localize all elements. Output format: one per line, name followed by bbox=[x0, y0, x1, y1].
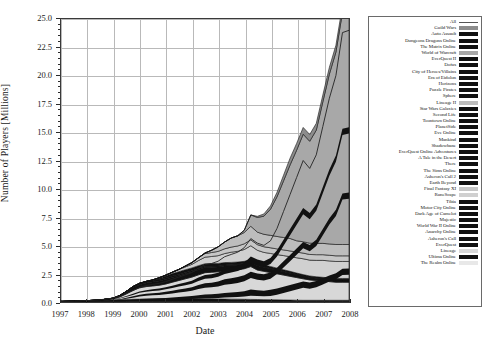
legend-swatch bbox=[459, 218, 478, 222]
legend-swatch bbox=[459, 156, 478, 160]
legend-swatch bbox=[459, 243, 478, 247]
legend-swatch bbox=[459, 57, 478, 61]
legend-swatch bbox=[459, 51, 478, 55]
legend-item-label: EverQuest Online Adventures bbox=[399, 149, 456, 155]
legend-swatch bbox=[459, 187, 478, 191]
legend-swatch bbox=[459, 107, 478, 111]
legend-swatch bbox=[459, 237, 478, 241]
x-tick-mark bbox=[165, 299, 166, 303]
legend-item-label: Dungeons Dragons Online bbox=[405, 38, 456, 44]
legend: AllGuild WarsAuto AssaultDungeons Dragon… bbox=[368, 16, 482, 307]
y-tick-label: 0.0 bbox=[0, 299, 52, 308]
y-tick-label: 7.5 bbox=[0, 214, 52, 223]
legend-swatch bbox=[459, 200, 478, 204]
legend-swatch bbox=[459, 88, 478, 92]
legend-swatch bbox=[459, 212, 478, 216]
legend-item-label: Majestic bbox=[440, 217, 456, 223]
legend-item-label: Guild Wars bbox=[434, 25, 456, 31]
legend-swatch bbox=[459, 32, 478, 36]
y-tick-mark bbox=[56, 303, 60, 304]
y-tick-label: 10.0 bbox=[0, 185, 52, 194]
legend-item-label: Star Wars Galaxies bbox=[420, 106, 456, 112]
x-tick-mark bbox=[245, 299, 246, 303]
x-tick-mark bbox=[297, 299, 298, 303]
legend-swatch bbox=[459, 181, 478, 185]
x-axis-label: Date bbox=[60, 325, 350, 336]
legend-item-label: World War II Online bbox=[417, 223, 456, 229]
x-tick-mark bbox=[192, 299, 193, 303]
legend-item-label: Auto Assault bbox=[431, 31, 456, 37]
legend-item-label: Puzzle Pirates bbox=[429, 87, 456, 93]
legend-swatch bbox=[459, 150, 478, 154]
legend-item-label: The Matrix Online bbox=[420, 44, 456, 50]
legend-swatch bbox=[459, 45, 478, 49]
x-tick-mark bbox=[324, 299, 325, 303]
legend-item-label: There bbox=[445, 161, 456, 167]
legend-item-label: Lineage bbox=[441, 248, 456, 254]
y-tick-label: 17.5 bbox=[0, 100, 52, 109]
x-tick-mark bbox=[218, 299, 219, 303]
legend-item-label: Eve Online bbox=[434, 130, 456, 136]
legend-swatch bbox=[459, 175, 478, 179]
legend-item-label: Asheron's Call bbox=[428, 236, 456, 242]
legend-swatch bbox=[459, 169, 478, 173]
legend-item-label: The Sims Online bbox=[424, 168, 456, 174]
legend-swatch bbox=[459, 224, 478, 228]
x-tick-mark bbox=[350, 299, 351, 303]
legend-swatch bbox=[459, 162, 478, 166]
legend-swatch bbox=[459, 113, 478, 117]
legend-item-label: Second Life bbox=[433, 112, 456, 118]
legend-swatch bbox=[459, 125, 478, 129]
legend-item-label: Earth Beyond bbox=[430, 180, 456, 186]
legend-item-label: World of Warcraft bbox=[421, 50, 456, 56]
x-tick-mark bbox=[60, 299, 61, 303]
legend-swatch bbox=[459, 261, 478, 265]
legend-swatch bbox=[459, 101, 478, 105]
legend-item-label: Dofus bbox=[444, 62, 456, 68]
legend-item-label: Lineage II bbox=[436, 100, 456, 106]
legend-item-label: EverQuest bbox=[436, 242, 456, 248]
legend-swatch bbox=[459, 144, 478, 148]
legend-swatch bbox=[459, 206, 478, 210]
x-tick-mark bbox=[139, 299, 140, 303]
plot-area bbox=[60, 18, 350, 303]
legend-item-label: The Realm Online bbox=[421, 260, 456, 266]
legend-item[interactable]: The Realm Online bbox=[371, 260, 478, 266]
x-tick-mark bbox=[113, 299, 114, 303]
legend-item-label: RuneScape bbox=[434, 192, 456, 198]
legend-swatch bbox=[459, 131, 478, 135]
legend-swatch bbox=[459, 63, 478, 67]
stacked-area-series bbox=[61, 19, 349, 302]
legend-swatch bbox=[459, 230, 478, 234]
legend-item-label: All bbox=[450, 19, 456, 25]
legend-swatch bbox=[459, 39, 478, 43]
legend-item-label: Dark Age of Camelot bbox=[415, 211, 456, 217]
y-tick-label: 25.0 bbox=[0, 14, 52, 23]
legend-item-label: Tibia bbox=[446, 199, 456, 205]
y-tick-label: 5.0 bbox=[0, 242, 52, 251]
legend-swatch bbox=[459, 138, 478, 142]
legend-swatch bbox=[459, 76, 478, 80]
legend-swatch bbox=[459, 26, 478, 30]
legend-item-label: Ultima Online bbox=[429, 254, 456, 260]
y-tick-label: 22.5 bbox=[0, 43, 52, 52]
legend-swatch bbox=[459, 119, 478, 123]
chart-figure: Number of Players [Millions] 0.02.55.07.… bbox=[0, 0, 488, 356]
legend-swatch bbox=[459, 94, 478, 98]
legend-swatch bbox=[459, 249, 478, 253]
y-tick-label: 12.5 bbox=[0, 157, 52, 166]
legend-item-label: EverQuest II bbox=[432, 56, 456, 62]
legend-item-label: Shadowbane bbox=[431, 143, 456, 149]
legend-item-label: Toontown Online bbox=[422, 118, 456, 124]
legend-item-label: A Tale in the Desert bbox=[418, 155, 456, 161]
x-tick-label: 2008 bbox=[330, 310, 370, 319]
legend-swatch bbox=[459, 70, 478, 74]
legend-item-label: Sphere bbox=[443, 93, 456, 99]
legend-swatch bbox=[459, 82, 478, 86]
y-tick-label: 15.0 bbox=[0, 128, 52, 137]
legend-item-label: Anarchy Online bbox=[425, 229, 456, 235]
legend-swatch bbox=[459, 193, 478, 197]
legend-item-label: Motor City Online bbox=[420, 205, 456, 211]
legend-item-label: Final Fantasy XI bbox=[424, 186, 456, 192]
x-tick-mark bbox=[86, 299, 87, 303]
